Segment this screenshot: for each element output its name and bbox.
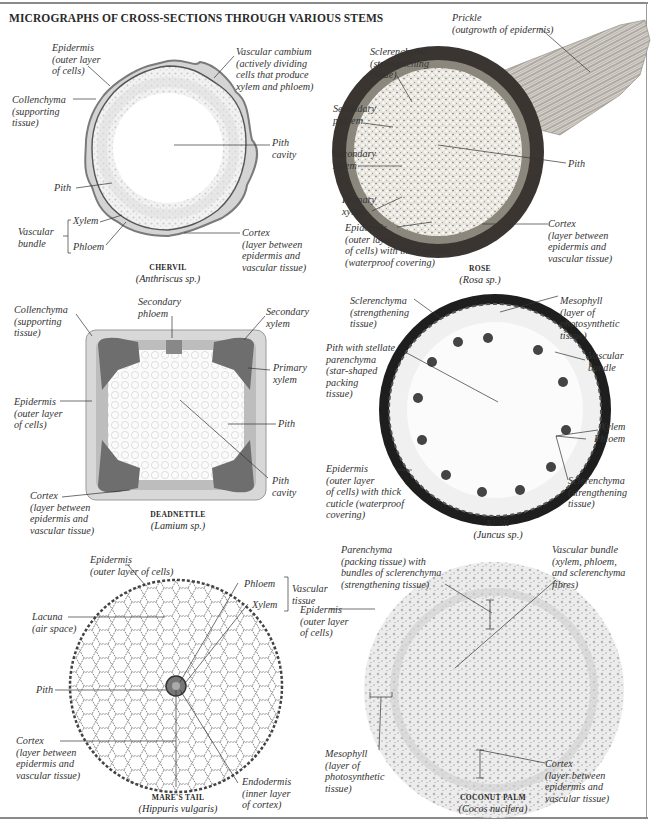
rush-label-pith-stellate: Pith with stellate parenchyma (star-shap…	[326, 342, 395, 400]
rose-scientific-name: (Rosa sp.)	[440, 274, 520, 286]
mares-tail-label-endodermis: Endodermis (inner layer of cortex)	[242, 776, 291, 811]
deadnettle-label-secondary-xylem: Secondary xylem	[266, 306, 309, 329]
deadnettle-label-pith: Pith	[278, 418, 295, 430]
mares-tail-label-epidermis: Epidermis (outer layer of cells)	[90, 554, 173, 577]
rush-label-epidermis: Epidermis (outer layer of cells) with th…	[326, 463, 404, 521]
chervil-label-phloem: Phloem	[73, 241, 104, 253]
deadnettle-label-cortex: Cortex (layer between epidermis and vasc…	[30, 490, 94, 536]
chervil-label-pith: Pith	[54, 182, 71, 194]
chervil-label-epidermis: Epidermis (outer layer of cells)	[52, 42, 100, 77]
mares-tail-label-xylem: Xylem	[252, 599, 277, 611]
rush-label-sclerenchyma-top: Sclerenchyma (strengthening tissue)	[350, 295, 409, 330]
rush-common-name: RUSH	[487, 519, 509, 528]
deadnettle-label-secondary-phloem: Secondary phloem	[138, 296, 181, 319]
deadnettle-micrograph	[86, 330, 266, 500]
mares-tail-label-phloem: Phloem	[244, 578, 275, 590]
mares-tail-caption: MARE'S TAIL (Hippuris vulgaris)	[128, 793, 228, 815]
chervil-micrograph	[85, 60, 257, 236]
rush-caption: RUSH (Juncus sp.)	[458, 519, 538, 541]
chervil-label-vascular-cambium: Vascular cambium (actively dividing cell…	[236, 46, 314, 92]
chervil-label-vascular-bundle: Vascular bundle	[18, 226, 54, 249]
rush-label-xylem: Xylem	[600, 421, 625, 433]
coconut-label-vascular-bundle: Vascular bundle (xylem, phloem, and scle…	[552, 544, 625, 590]
rush-scientific-name: (Juncus sp.)	[458, 529, 538, 541]
deadnettle-label-epidermis: Epidermis (outer layer of cells)	[14, 396, 62, 431]
rose-caption: ROSE (Rosa sp.)	[440, 264, 520, 286]
coconut-caption: COCONUT PALM (Cocos nucifera)	[438, 793, 548, 815]
rose-label-pith: Pith	[568, 158, 585, 170]
deadnettle-label-pith-cavity: Pith cavity	[272, 475, 296, 498]
coconut-common-name: COCONUT PALM	[460, 793, 526, 802]
chervil-label-cortex: Cortex (layer between epidermis and vasc…	[242, 227, 306, 273]
coconut-label-cortex: Cortex (layer between epidermis and vasc…	[545, 758, 609, 804]
deadnettle-scientific-name: (Lamium sp.)	[128, 520, 228, 532]
deadnettle-label-primary-xylem: Primary xylem	[273, 362, 307, 385]
mares-tail-label-cortex: Cortex (layer between epidermis and vasc…	[16, 735, 80, 781]
mares-tail-scientific-name: (Hippuris vulgaris)	[128, 803, 228, 815]
coconut-label-epidermis: Epidermis (outer layer of cells)	[300, 604, 348, 639]
chervil-label-collenchyma: Collenchyma (supporting tissue)	[12, 94, 66, 129]
rose-label-prickle: Prickle (outgrowth of epidermis)	[452, 12, 554, 35]
chervil-scientific-name: (Anthriscus sp.)	[118, 273, 218, 285]
coconut-label-mesophyll: Mesophyll (layer of photosynthetic tissu…	[325, 748, 384, 794]
rose-label-secondary-xylem: Secondary xylem	[333, 148, 376, 171]
coconut-label-parenchyma: Parenchyma (packing tissue) with bundles…	[341, 544, 441, 590]
deadnettle-caption: DEADNETTLE (Lamium sp.)	[128, 510, 228, 532]
mares-tail-label-pith: Pith	[36, 684, 53, 696]
rush-label-mesophyll: Mesophyll (layer of photosynthetic tissu…	[560, 295, 619, 341]
micrograph-artwork	[0, 0, 657, 828]
rose-label-sclerenchyma: Sclerenchyma (strengthening tissue)	[370, 46, 429, 81]
rush-label-sclerenchyma-bottom: Sclerenchyma (strengthening tissue)	[568, 475, 627, 510]
rose-label-secondary-phloem: Secondary phloem	[333, 103, 376, 126]
mares-tail-label-lacuna: Lacuna (air space)	[32, 611, 76, 634]
rose-label-epidermis: Epidermis (outer layer of cells) with th…	[345, 222, 450, 268]
rush-label-vascular-bundle: Vascular bundle	[588, 350, 624, 373]
rush-label-phloem: Phloem	[594, 433, 625, 445]
rose-label-primary-xylem: Primary xylem	[342, 194, 376, 217]
chervil-caption: CHERVIL (Anthriscus sp.)	[118, 263, 218, 285]
chervil-label-xylem: Xylem	[73, 215, 98, 227]
chervil-label-pith-cavity: Pith cavity	[272, 137, 296, 160]
mares-tail-label-vascular-tissue: Vascular tissue	[292, 583, 328, 606]
rose-label-cortex: Cortex (layer between epidermis and vasc…	[548, 218, 612, 264]
deadnettle-common-name: DEADNETTLE	[150, 510, 205, 519]
coconut-scientific-name: (Cocos nucifera)	[438, 803, 548, 815]
deadnettle-label-collenchyma: Collenchyma (supporting tissue)	[14, 304, 68, 339]
rose-common-name: ROSE	[469, 264, 491, 273]
mares-tail-common-name: MARE'S TAIL	[152, 793, 205, 802]
chervil-common-name: CHERVIL	[149, 263, 186, 272]
